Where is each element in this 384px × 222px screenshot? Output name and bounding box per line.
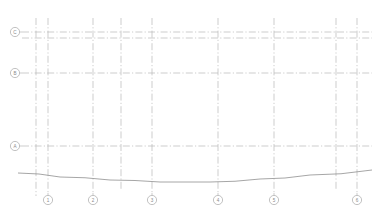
column-bubble-1[interactable]: 1 xyxy=(43,195,52,204)
ground-line-layer xyxy=(18,170,372,182)
column-bubble-6-label: 6 xyxy=(356,198,359,203)
row-bubble-B[interactable]: B xyxy=(10,68,19,77)
ground-profile xyxy=(18,170,372,182)
row-bubble-B-label: B xyxy=(13,71,16,76)
row-bubble-C[interactable]: C xyxy=(10,27,19,36)
column-bubble-6[interactable]: 6 xyxy=(352,195,361,204)
column-bubble-5-label: 5 xyxy=(273,198,276,203)
column-bubble-1-label: 1 xyxy=(47,198,50,203)
column-bubble-2-label: 2 xyxy=(92,198,95,203)
drawing-svg: 123456CBA xyxy=(0,0,384,222)
column-bubble-2[interactable]: 2 xyxy=(88,195,97,204)
row-grid-layer xyxy=(22,32,372,146)
row-bubble-A[interactable]: A xyxy=(10,141,19,150)
column-bubble-4[interactable]: 4 xyxy=(213,195,222,204)
grid-bubble-layer: 123456CBA xyxy=(10,27,361,204)
architectural-drawing-canvas: 123456CBA xyxy=(0,0,384,222)
column-bubble-3[interactable]: 3 xyxy=(147,195,156,204)
column-bubble-4-label: 4 xyxy=(217,198,220,203)
column-grid-layer xyxy=(36,18,357,196)
column-bubble-5[interactable]: 5 xyxy=(269,195,278,204)
column-bubble-3-label: 3 xyxy=(151,198,154,203)
